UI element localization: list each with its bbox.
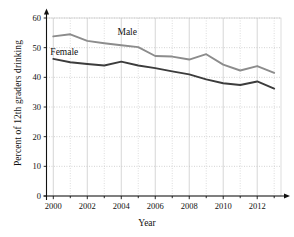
x-axis-ticks: 2000200220042006200820102012 xyxy=(45,196,274,211)
y-axis-ticks: 0102030405060 xyxy=(33,13,47,201)
y-tick-label: 20 xyxy=(33,132,42,142)
y-tick-label: 40 xyxy=(33,72,42,82)
x-tick-label: 2004 xyxy=(113,201,131,211)
y-tick-label: 50 xyxy=(33,43,42,53)
x-tick-label: 2008 xyxy=(181,201,198,211)
x-tick-label: 2002 xyxy=(79,201,96,211)
series-label-male: Male xyxy=(117,27,137,37)
data-series-group xyxy=(53,34,274,88)
y-tick-label: 60 xyxy=(33,13,42,23)
series-line-male xyxy=(53,34,274,73)
gridlines-group xyxy=(47,18,282,196)
x-tick-label: 2012 xyxy=(249,201,266,211)
x-tick-label: 2010 xyxy=(215,201,232,211)
x-axis-title: Year xyxy=(0,218,294,228)
x-tick-label: 2006 xyxy=(147,201,164,211)
y-tick-label: 10 xyxy=(33,161,42,171)
series-line-female xyxy=(53,59,274,89)
x-axis-arrow xyxy=(284,193,290,198)
line-chart-plot: 0102030405060 20002002200420062008201020… xyxy=(0,0,294,237)
x-tick-label: 2000 xyxy=(45,201,62,211)
y-tick-label: 30 xyxy=(33,102,42,112)
y-axis-arrow xyxy=(44,9,49,15)
chart-container: 0102030405060 20002002200420062008201020… xyxy=(0,0,294,237)
y-axis-title: Percent of 12th graders drinking xyxy=(13,23,23,183)
series-label-female: Female xyxy=(50,47,78,57)
y-tick-label: 0 xyxy=(37,191,41,201)
